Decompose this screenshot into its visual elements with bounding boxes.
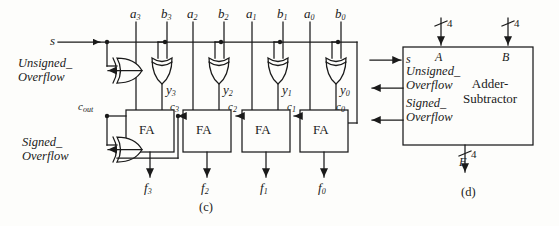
select-input-label: s (50, 33, 55, 49)
input-label-a3: a3 (130, 6, 141, 22)
xor-output-label-y2: y2 (223, 82, 233, 98)
signed-overflow-label-c: Signed_ Overflow (22, 136, 69, 163)
panel-c-caption: (c) (199, 200, 213, 215)
xor-output-label-y1: y1 (282, 82, 292, 98)
adder-subtractor-block-title: Adder- Subtractor (463, 76, 517, 106)
sum-output-label-f1: f1 (260, 180, 268, 196)
sum-output-label-f0: f0 (318, 180, 326, 196)
figure-adder-subtractor: s a3 b3 a2 b2 a1 b1 a0 b0 y3 y2 y1 y0 FA… (0, 0, 559, 226)
carry-label-c1: c1 (287, 100, 296, 114)
sum-output-label-f2: f2 (201, 180, 209, 196)
input-label-b2: b2 (218, 6, 229, 22)
input-label-a1: a1 (246, 6, 257, 22)
bus-width-label-b: 4 (514, 17, 520, 29)
port-label-f: F (459, 155, 466, 170)
input-label-a0: a0 (304, 6, 315, 22)
panel-d-caption: (d) (461, 185, 476, 200)
xor-output-label-y3: y3 (166, 82, 176, 98)
full-adder-2-label: FA (196, 122, 212, 138)
unsigned-overflow-label-c: Unsigned_ Overflow (18, 57, 72, 84)
carry-out-label: cout (78, 100, 93, 114)
unsigned-overflow-label-d: Unsigned_ Overflow (406, 65, 460, 92)
carry-label-c2: c2 (228, 100, 237, 114)
signed-overflow-label-d: Signed_ Overflow (406, 97, 453, 124)
carry-label-c0: c0 (336, 100, 345, 114)
input-label-b0: b0 (335, 6, 346, 22)
xor-output-label-y0: y0 (340, 82, 350, 98)
input-label-a2: a2 (187, 6, 198, 22)
full-adder-3-label: FA (139, 122, 155, 138)
port-label-b: B (502, 50, 509, 65)
bus-width-label-f: 4 (471, 148, 477, 160)
input-label-b1: b1 (277, 6, 288, 22)
carry-label-c3: c3 (170, 100, 179, 114)
full-adder-0-label: FA (313, 122, 329, 138)
input-label-b3: b3 (161, 6, 172, 22)
sum-output-label-f3: f3 (144, 180, 152, 196)
full-adder-1-label: FA (255, 122, 271, 138)
port-label-a: A (435, 50, 442, 65)
bus-width-label-a: 4 (447, 17, 453, 29)
